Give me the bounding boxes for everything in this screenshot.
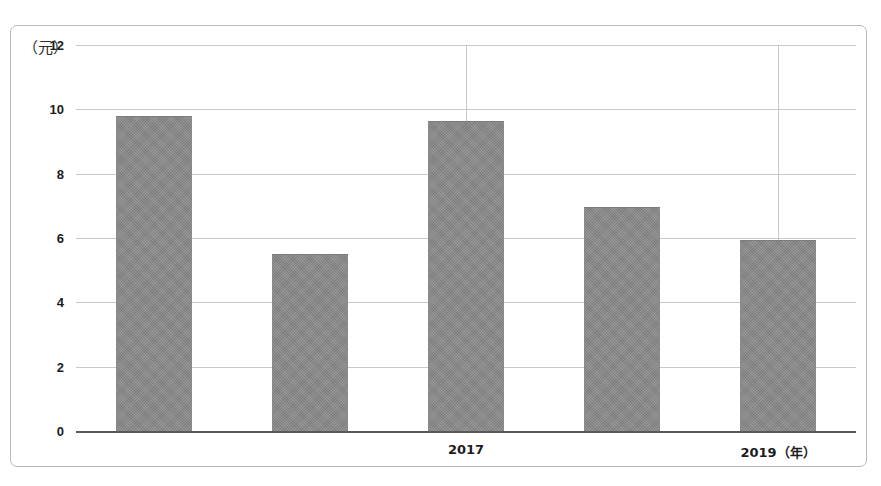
bar-2017 (428, 121, 504, 431)
gridline-x-2019 (778, 45, 779, 240)
x-axis-baseline (76, 431, 856, 433)
bar-2015 (116, 116, 192, 431)
y-tick-label-6: 6 (57, 231, 64, 246)
y-tick-label-2: 2 (57, 359, 64, 374)
y-tick-label-4: 4 (57, 295, 64, 310)
x-tick-label-2019: 2019（年） (740, 442, 815, 461)
bar-2016 (272, 254, 348, 431)
y-tick-label-10: 10 (50, 102, 64, 117)
y-tick-label-12: 12 (50, 38, 64, 53)
y-tick-label-0: 0 (57, 424, 64, 439)
gridline-x-2017 (466, 45, 467, 121)
chart-frame: （元） 121086420 20172019（年） (10, 25, 867, 467)
y-tick-label-8: 8 (57, 166, 64, 181)
x-tick-label-2017: 2017 (448, 442, 484, 457)
plot-area: 121086420 20172019（年） (76, 45, 856, 431)
bar-2019 (740, 240, 816, 431)
bar-2018 (584, 207, 660, 431)
